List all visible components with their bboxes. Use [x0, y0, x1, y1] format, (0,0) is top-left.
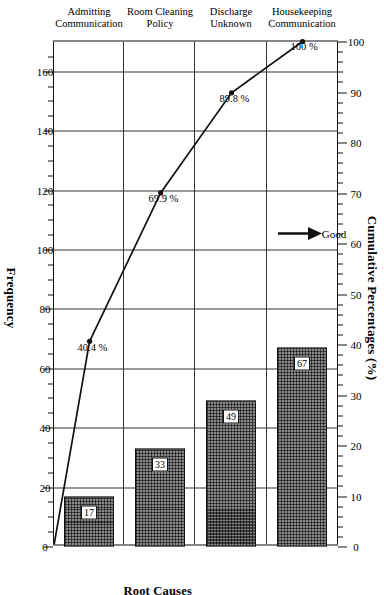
cumulative-minor-tick — [338, 81, 343, 82]
cumulative-tick-label: 70 — [351, 187, 362, 199]
cumulative-percentage-label: 69.9 % — [148, 193, 178, 204]
cumulative-minor-tick — [338, 465, 343, 466]
cumulative-tick — [338, 395, 347, 396]
frequency-axis-title: Frequency — [3, 0, 19, 595]
category-label-line: Housekeeping — [269, 5, 337, 17]
cumulative-tick — [338, 193, 347, 194]
frequency-minor-tick — [48, 219, 53, 220]
cumulative-minor-tick — [338, 536, 343, 537]
frequency-minor-tick — [48, 264, 53, 265]
pareto-chart-figure: Cumulative Percentages (%) Frequency Roo… — [0, 0, 384, 595]
cumulative-tick-label: 40 — [351, 338, 362, 350]
frequency-tick-label: 100 — [37, 243, 54, 255]
cumulative-minor-tick — [338, 334, 343, 335]
cumulative-minor-tick — [338, 475, 343, 476]
cumulative-minor-tick — [338, 122, 343, 123]
frequency-minor-tick — [48, 516, 53, 517]
frequency-minor-tick — [48, 279, 53, 280]
category-label: DischargeUnknown — [210, 5, 252, 29]
cumulative-minor-tick — [338, 162, 343, 163]
cumulative-minor-tick — [338, 354, 343, 355]
cumulative-minor-tick — [338, 132, 343, 133]
cumulative-percentage-label: 89.8 % — [220, 92, 250, 103]
frequency-tick-label: 0 — [42, 540, 48, 552]
frequency-minor-tick — [48, 160, 53, 161]
frequency-minor-tick — [48, 442, 53, 443]
cumulative-tick-label: 80 — [351, 136, 362, 148]
frequency-minor-tick — [48, 412, 53, 413]
cumulative-minor-tick — [338, 435, 343, 436]
category-label: HousekeepingCommunication — [269, 5, 337, 29]
frequency-tick-label: 120 — [37, 184, 54, 196]
frequency-minor-tick — [48, 100, 53, 101]
frequency-minor-tick — [48, 175, 53, 176]
cumulative-tick-label: 20 — [351, 439, 362, 451]
frequency-minor-tick — [48, 145, 53, 146]
frequency-minor-tick — [48, 353, 53, 354]
plot-area: 0102030405060708090100 02040608010012014… — [53, 40, 338, 545]
category-label-line: Unknown — [210, 17, 252, 29]
cumulative-percentage-label: 100 % — [291, 41, 318, 52]
cumulative-tick — [338, 243, 347, 244]
cumulative-minor-tick — [338, 384, 343, 385]
frequency-minor-tick — [48, 86, 53, 87]
frequency-tick-label: 40 — [40, 421, 51, 433]
cumulative-minor-tick — [338, 415, 343, 416]
category-label-line: Policy — [127, 17, 193, 29]
cumulative-tick — [338, 294, 347, 295]
cumulative-tick-label: 10 — [351, 490, 362, 502]
category-label-line: Admitting — [55, 5, 123, 17]
cumulative-tick — [338, 445, 347, 446]
cumulative-minor-tick — [338, 71, 343, 72]
cumulative-percentage-line — [54, 41, 338, 544]
cumulative-tick-label: 30 — [351, 389, 362, 401]
category-label-line: Discharge — [210, 5, 252, 17]
category-label-line: Communication — [55, 17, 123, 29]
frequency-minor-tick — [48, 501, 53, 502]
good-annotation-label: Good — [322, 227, 346, 239]
frequency-minor-tick — [48, 472, 53, 473]
cumulative-line-markers — [87, 38, 305, 343]
cumulative-tick — [338, 344, 347, 345]
cumulative-tick — [338, 546, 347, 547]
frequency-tick-label: 20 — [40, 481, 51, 493]
cumulative-minor-tick — [338, 283, 343, 284]
cumulative-tick — [338, 142, 347, 143]
cumulative-minor-tick — [338, 203, 343, 204]
cumulative-minor-tick — [338, 304, 343, 305]
frequency-minor-tick — [48, 294, 53, 295]
cumulative-tick-label: 0 — [353, 540, 359, 552]
cumulative-minor-tick — [338, 526, 343, 527]
figure-canvas: Cumulative Percentages (%) Frequency Roo… — [0, 0, 384, 595]
cumulative-minor-tick — [338, 223, 343, 224]
cumulative-minor-tick — [338, 516, 343, 517]
cumulative-minor-tick — [338, 364, 343, 365]
cumulative-tick — [338, 41, 347, 42]
cumulative-minor-tick — [338, 213, 343, 214]
cumulative-minor-tick — [338, 324, 343, 325]
category-label-line: Room Cleaning — [127, 5, 193, 17]
frequency-minor-tick — [48, 397, 53, 398]
cumulative-tick — [338, 496, 347, 497]
cumulative-percentages-axis-title: Cumulative Percentages (%) — [364, 0, 380, 595]
category-label-line: Communication — [269, 17, 337, 29]
cumulative-percentage-label: 40.4 % — [77, 341, 107, 352]
cumulative-line-path — [54, 41, 302, 544]
cumulative-minor-tick — [338, 253, 343, 254]
cumulative-minor-tick — [338, 425, 343, 426]
frequency-tick-label: 80 — [40, 302, 51, 314]
cumulative-minor-tick — [338, 485, 343, 486]
root-causes-axis-title: Root Causes — [123, 584, 192, 595]
frequency-tick-label: 60 — [40, 362, 51, 374]
cumulative-minor-tick — [338, 112, 343, 113]
cumulative-tick-label: 50 — [351, 288, 362, 300]
frequency-minor-tick — [48, 323, 53, 324]
cumulative-minor-tick — [338, 506, 343, 507]
frequency-minor-tick — [48, 56, 53, 57]
good-direction-arrow-icon — [278, 225, 322, 241]
cumulative-minor-tick — [338, 273, 343, 274]
cumulative-tick-label: 100 — [348, 35, 365, 47]
frequency-minor-tick — [48, 531, 53, 532]
frequency-minor-tick — [48, 115, 53, 116]
frequency-minor-tick — [48, 234, 53, 235]
